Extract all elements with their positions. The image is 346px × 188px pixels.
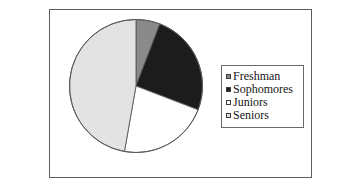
- legend-label-seniors: Seniors: [233, 109, 269, 122]
- chart-legend: Freshman Sophomores Juniors Seniors: [221, 65, 304, 128]
- legend-swatch-freshman: [226, 74, 231, 79]
- legend-swatch-seniors: [226, 113, 231, 118]
- pie-slice-group: [69, 19, 202, 152]
- legend-item-seniors[interactable]: Seniors: [226, 109, 298, 122]
- legend-swatch-juniors: [226, 100, 231, 105]
- pie-slice-seniors[interactable]: [69, 19, 136, 151]
- chart-frame: Freshman Sophomores Juniors Seniors: [49, 9, 312, 178]
- pie-chart: [69, 16, 203, 156]
- legend-swatch-sophomores: [226, 87, 231, 92]
- pie-chart-svg: [69, 16, 203, 156]
